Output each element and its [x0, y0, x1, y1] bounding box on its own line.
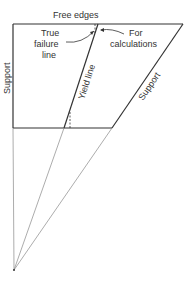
- extension-support: [14, 128, 112, 270]
- true-failure-arrow: [66, 31, 94, 42]
- for-calc-label-line1: For: [129, 28, 143, 38]
- for-calc-label-line2: calculations: [110, 39, 158, 49]
- yield-line-diagram: Free edges True failure line For calcula…: [0, 0, 190, 284]
- for-calc-arrow: [101, 30, 124, 35]
- for-calc-arrowhead: [100, 28, 104, 32]
- extension-yield: [14, 128, 64, 270]
- extension-lines: [13, 128, 112, 270]
- true-failure-label-line2: failure: [34, 39, 59, 49]
- extension-left: [13, 128, 14, 270]
- support-left-label: Support: [2, 62, 12, 94]
- true-failure-label-line1: True: [41, 28, 59, 38]
- apex-point: [13, 269, 15, 271]
- true-failure-label-line3: line: [42, 50, 56, 60]
- free-edges-label: Free edges: [53, 10, 99, 20]
